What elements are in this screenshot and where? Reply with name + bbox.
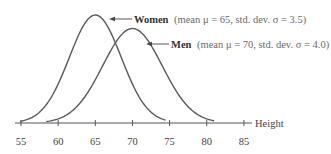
women-arrowhead-icon [109,17,115,21]
x-tick-label: 55 [16,136,27,147]
x-axis-label: Height [255,118,284,129]
x-tick-label: 65 [90,136,101,147]
x-tick-label: 60 [53,136,64,147]
x-tick-label: 75 [164,136,175,147]
men-annotation: Men (mean μ = 70, std. dev. σ = 4.0) [171,39,330,51]
x-tick-label: 70 [127,136,138,147]
x-tick-label: 85 [239,136,250,147]
chart: 55606570758085 Height Women (mean μ = 65… [0,0,331,154]
women-annotation: Women (mean μ = 65, std. dev. σ = 3.5) [134,14,307,26]
x-tick-label: 80 [202,136,213,147]
women-curve [20,15,166,121]
x-ticks: 55606570758085 [16,120,249,147]
